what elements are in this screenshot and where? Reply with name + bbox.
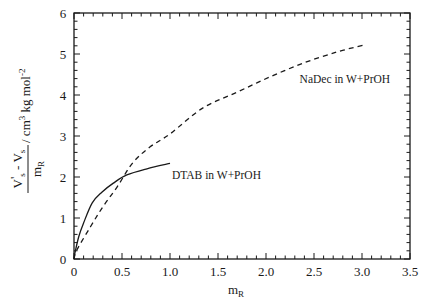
dtab-solid-line	[74, 163, 170, 259]
x-axis-label: mR	[228, 282, 244, 299]
x-tick-label: 1.5	[210, 264, 226, 279]
y-axis-label: V's - Vs mR / cm3 kg mol-2	[7, 69, 46, 193]
x-tick-label: 3.0	[354, 264, 370, 279]
y-tick-label: 4	[60, 88, 67, 103]
y-tick-label: 2	[60, 170, 67, 185]
x-tick-label: 2.5	[306, 264, 322, 279]
y-tick-labels: 0123456	[60, 6, 67, 267]
chart: 00.51.01.52.02.53.03.5 0123456 DTAB in W…	[0, 0, 422, 305]
x-tick-label: 2.0	[258, 264, 274, 279]
x-tick-label: 0	[71, 264, 78, 279]
y-tick-label: 1	[60, 211, 67, 226]
x-tick-label: 1.0	[162, 264, 178, 279]
x-tick-label: 3.5	[402, 264, 418, 279]
series-annotations: DTAB in W+PrOHNaDec in W+PrOH	[172, 73, 390, 181]
y-tick-label: 3	[60, 129, 67, 144]
plot-frame	[74, 13, 410, 259]
y-tick-label: 6	[60, 6, 67, 21]
axis-ticks	[74, 13, 410, 259]
series-annotation: NaDec in W+PrOH	[300, 73, 391, 85]
x-tick-labels: 00.51.01.52.02.53.03.5	[71, 264, 418, 279]
svg-text:V's - Vs: V's - Vs	[7, 149, 27, 188]
x-tick-label: 0.5	[114, 264, 130, 279]
y-tick-label: 0	[60, 252, 67, 267]
svg-text:/ cm3 kg mol-2: / cm3 kg mol-2	[17, 69, 33, 143]
series-annotation: DTAB in W+PrOH	[172, 169, 261, 181]
svg-text:mR: mR	[29, 161, 46, 177]
y-tick-label: 5	[60, 47, 67, 62]
